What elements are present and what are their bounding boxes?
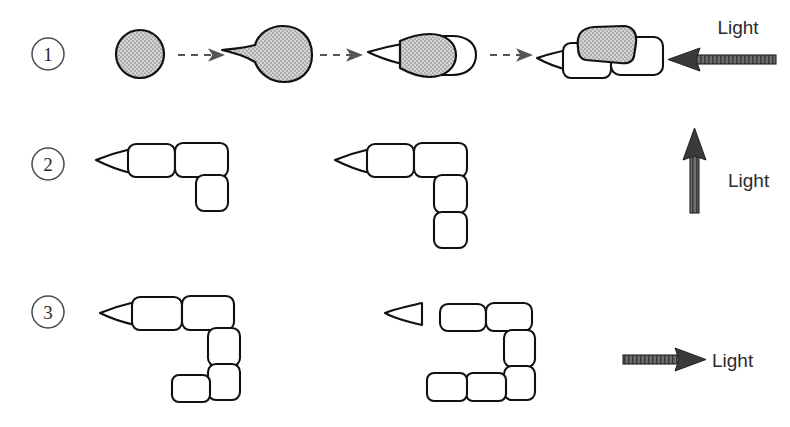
vertical-cell-1 [196, 175, 228, 211]
foot-cell-1 [466, 373, 506, 401]
row-label-text: 2 [43, 154, 53, 175]
horizontal-cell-2 [182, 296, 234, 330]
vertical-cell-1 [208, 328, 240, 366]
light-arrow-shaft [690, 152, 699, 213]
horizontal-cell-2 [175, 143, 228, 177]
vertical-cell-2 [434, 212, 467, 248]
vertical-cell-2 [208, 364, 240, 400]
vertical-cell-1 [434, 175, 467, 213]
horizontal-cell-1 [132, 297, 182, 330]
shaded-apical-cell [578, 26, 637, 63]
diagram-canvas: 1 [0, 0, 790, 427]
row-label-text: 3 [43, 302, 53, 323]
light-label: Light [717, 17, 759, 38]
horizontal-cell-1 [367, 144, 414, 177]
horizontal-cell-2 [414, 143, 467, 177]
vertical-cell-1 [504, 330, 535, 367]
spore-body [116, 30, 164, 78]
shaded-basal-cell [400, 34, 456, 77]
row-label-text: 1 [43, 44, 53, 65]
vertical-cell-2 [504, 366, 535, 400]
light-arrow-shaft [623, 355, 684, 364]
light-arrow-shaft [694, 55, 776, 64]
light-label: Light [728, 170, 770, 191]
foot-cell-2 [427, 373, 467, 401]
horizontal-cell-1 [128, 144, 175, 177]
foot-cell-1 [172, 375, 210, 402]
phototropism-diagram: 1 [0, 0, 790, 427]
horizontal-cell-1 [440, 304, 486, 331]
light-label: Light [712, 350, 754, 371]
stage-spore [116, 30, 164, 78]
horizontal-cell-2 [486, 303, 532, 331]
